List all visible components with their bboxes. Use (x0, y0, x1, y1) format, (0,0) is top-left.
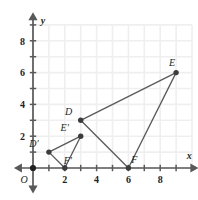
y-tick-label: 2 (20, 131, 25, 142)
origin-label: O (20, 174, 27, 185)
y-axis-label: y (40, 15, 46, 26)
vertex-label-f-prime: F′ (63, 155, 73, 166)
origin-point (30, 165, 36, 171)
axes (14, 12, 198, 193)
vertex-point-e-prime (78, 134, 83, 139)
x-tick-label: 2 (62, 174, 67, 185)
vertex-point-d (78, 118, 83, 123)
y-tick-label: 6 (20, 67, 25, 78)
vertex-point-f (126, 165, 131, 170)
axis-ticks (30, 25, 176, 171)
x-axis-label: x (186, 150, 192, 161)
x-tick-label: 6 (126, 174, 131, 185)
x-axis-arrow-left (14, 163, 22, 172)
vertex-point-e (173, 70, 178, 75)
axis-tick-labels: 24682468O (20, 36, 163, 185)
y-axis-arrow-down (28, 185, 37, 193)
vertex-label-e: E (168, 57, 175, 68)
y-axis-arrow-up (28, 12, 37, 20)
x-axis-arrow-right (190, 163, 198, 172)
vertex-label-f: F (130, 154, 138, 165)
vertex-label-e-prime: E′ (60, 122, 70, 133)
x-tick-label: 8 (158, 174, 163, 185)
y-tick-label: 8 (20, 36, 25, 47)
y-tick-label: 4 (20, 99, 25, 110)
x-tick-label: 4 (94, 174, 99, 185)
coordinate-plane-svg: 24682468O DEFD′E′F′ xy (0, 0, 198, 200)
vertex-point-d-prime (46, 149, 51, 154)
vertex-point-f-prime (62, 165, 67, 170)
grid-lines (33, 25, 192, 168)
vertex-label-d: D (64, 106, 73, 117)
vertex-label-d-prime: D′ (28, 138, 39, 149)
coordinate-plane-figure: 24682468O DEFD′E′F′ xy (0, 0, 198, 200)
